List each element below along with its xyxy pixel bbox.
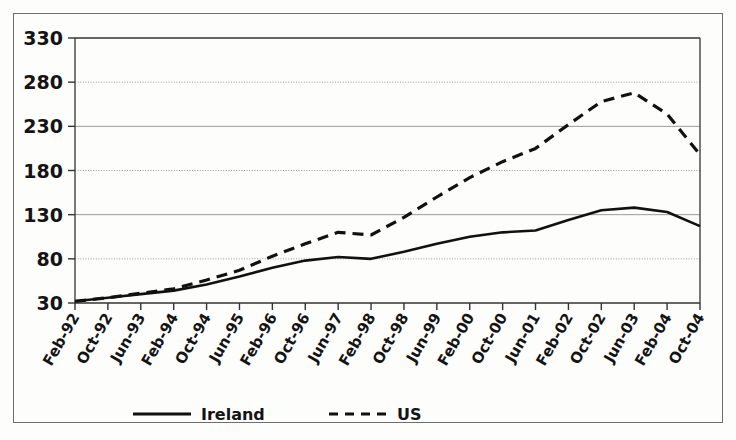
data-series [75,93,700,301]
chart-legend: IrelandUS [133,405,422,424]
y-axis-tick-label: 330 [23,27,63,49]
y-axis-tick-label: 230 [23,115,63,137]
x-axis-tick-labels: Feb-92Oct-92Jun-93Feb-94Oct-94Jun-95Feb-… [39,310,708,369]
x-axis-ticks [75,303,700,310]
line-chart: 3302802301801308030 Feb-92Oct-92Jun-93Fe… [0,0,736,440]
y-axis-tick-label: 30 [37,292,63,314]
legend-label-us: US [397,405,422,424]
y-axis-tick-labels: 3302802301801308030 [23,27,63,314]
y-axis-tick-label: 280 [23,71,63,93]
chart-container: 3302802301801308030 Feb-92Oct-92Jun-93Fe… [0,0,736,440]
y-axis-tick-label: 80 [37,248,63,270]
y-axis-ticks [68,38,75,303]
series-line-us [75,93,700,301]
y-axis-tick-label: 180 [23,160,63,182]
series-line-ireland [75,208,700,302]
legend-label-ireland: Ireland [201,405,265,424]
y-axis-tick-label: 130 [23,204,63,226]
